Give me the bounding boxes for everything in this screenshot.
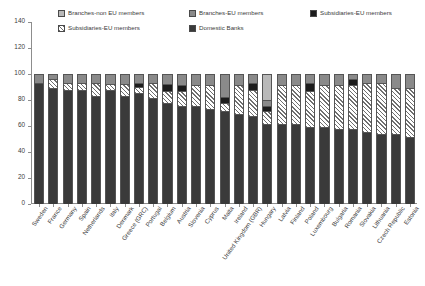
bar-segment-branches_eu xyxy=(377,75,385,83)
bar-segment-branches_eu xyxy=(178,75,186,85)
stacked-bar[interactable] xyxy=(319,74,329,204)
bar-segment-branches_eu xyxy=(35,75,43,83)
bar-segment-domestic xyxy=(221,111,229,204)
bar-series-container xyxy=(32,22,417,204)
bar-slot xyxy=(103,22,117,204)
bar-slot xyxy=(332,22,346,204)
stacked-bar[interactable] xyxy=(162,74,172,204)
stacked-bar[interactable] xyxy=(134,74,144,204)
bar-segment-domestic xyxy=(363,132,371,204)
legend-branches-non-eu[interactable]: Branches-non EU members xyxy=(58,9,144,17)
bar-segment-branches_eu xyxy=(363,75,371,83)
stacked-bar[interactable] xyxy=(177,74,187,204)
bar-slot xyxy=(374,22,388,204)
stacked-bar[interactable] xyxy=(291,74,301,204)
bar-slot xyxy=(203,22,217,204)
stacked-bar[interactable] xyxy=(334,74,344,204)
stacked-bar[interactable] xyxy=(348,74,358,204)
bar-segment-subs_hatch xyxy=(278,85,286,124)
bar-segment-subs_hatch xyxy=(78,83,86,91)
stacked-bar[interactable] xyxy=(362,74,372,204)
bar-slot xyxy=(146,22,160,204)
stacked-bar[interactable] xyxy=(277,74,287,204)
bar-slot xyxy=(160,22,174,204)
stacked-bar[interactable] xyxy=(34,74,44,204)
x-axis-category-label: Italy xyxy=(108,205,120,218)
stacked-bar[interactable] xyxy=(305,74,315,204)
stacked-bar[interactable] xyxy=(77,74,87,204)
bar-segment-domestic xyxy=(35,83,43,204)
stacked-bar[interactable] xyxy=(391,74,401,204)
bar-slot xyxy=(303,22,317,204)
bar-segment-domestic xyxy=(292,124,300,204)
bar-slot xyxy=(118,22,132,204)
bar-segment-subs_solid xyxy=(306,83,314,91)
bar-slot xyxy=(46,22,60,204)
y-tick-label: 140 xyxy=(14,17,25,24)
bar-segment-subs_hatch xyxy=(235,85,243,113)
bar-slot xyxy=(32,22,46,204)
bar-segment-domestic xyxy=(278,124,286,204)
bar-segment-subs_hatch xyxy=(292,85,300,124)
bar-slot xyxy=(246,22,260,204)
bar-segment-domestic xyxy=(406,137,414,204)
bar-slot xyxy=(217,22,231,204)
stacked-bar[interactable] xyxy=(205,74,215,204)
bar-segment-branches_eu xyxy=(121,75,129,84)
bar-slot xyxy=(175,22,189,204)
bar-segment-branches_eu xyxy=(249,75,257,83)
bar-segment-branches_eu xyxy=(192,75,200,85)
y-tick-label: 80 xyxy=(18,95,25,102)
bar-segment-domestic xyxy=(392,134,400,204)
stacked-bar[interactable] xyxy=(63,74,73,204)
legend-subsidiaries-eu-solid[interactable]: Subsidiaries-EU members xyxy=(310,9,392,17)
bar-segment-domestic xyxy=(335,129,343,204)
bar-segment-branches_eu xyxy=(64,75,72,83)
bar-segment-subs_hatch xyxy=(163,91,171,104)
bar-segment-subs_hatch xyxy=(363,83,371,132)
bar-segment-domestic xyxy=(106,90,114,204)
bar-segment-subs_hatch xyxy=(92,83,100,96)
bar-slot xyxy=(61,22,75,204)
stacked-bar[interactable] xyxy=(148,74,158,204)
stacked-bar[interactable] xyxy=(91,74,101,204)
stacked-bar[interactable] xyxy=(105,74,115,204)
bar-slot xyxy=(75,22,89,204)
stacked-bar[interactable] xyxy=(120,74,130,204)
stacked-bar[interactable] xyxy=(262,74,272,204)
bar-segment-domestic xyxy=(178,106,186,204)
bar-segment-branches_eu xyxy=(149,75,157,83)
bar-segment-domestic xyxy=(263,124,271,204)
y-tick-mark xyxy=(28,126,31,127)
stacked-bar[interactable] xyxy=(248,74,258,204)
stacked-bar[interactable] xyxy=(191,74,201,204)
y-tick-label: 40 xyxy=(18,147,25,154)
legend-branches-eu[interactable]: Branches-EU members xyxy=(189,9,263,17)
bar-segment-branches_non_eu xyxy=(263,75,271,100)
stacked-bar[interactable] xyxy=(220,74,230,204)
stacked-bar[interactable] xyxy=(48,74,58,204)
legend-item-label: Subsidiaries-EU members xyxy=(320,9,392,17)
y-tick-mark xyxy=(28,22,31,23)
bar-segment-domestic xyxy=(235,114,243,204)
bar-slot xyxy=(346,22,360,204)
bar-segment-subs_hatch xyxy=(406,88,414,137)
bar-segment-domestic xyxy=(92,96,100,204)
bar-segment-branches_eu xyxy=(320,75,328,85)
bar-slot xyxy=(275,22,289,204)
bar-segment-domestic xyxy=(163,103,171,204)
stacked-bar[interactable] xyxy=(376,74,386,204)
bar-segment-domestic xyxy=(64,90,72,204)
stacked-bar-chart: Branches-non EU membersBranches-EU membe… xyxy=(0,0,425,286)
bar-slot xyxy=(360,22,374,204)
bar-segment-domestic xyxy=(49,88,57,204)
stacked-bar[interactable] xyxy=(234,74,244,204)
legend-item-label: Branches-EU members xyxy=(199,9,263,17)
bar-segment-subs_hatch xyxy=(263,111,271,124)
bar-segment-branches_eu xyxy=(306,75,314,83)
bar-slot xyxy=(403,22,417,204)
bar-segment-domestic xyxy=(192,106,200,204)
plot-area: 020406080100120140 xyxy=(31,22,417,204)
bar-segment-subs_hatch xyxy=(249,90,257,116)
stacked-bar[interactable] xyxy=(405,74,415,204)
